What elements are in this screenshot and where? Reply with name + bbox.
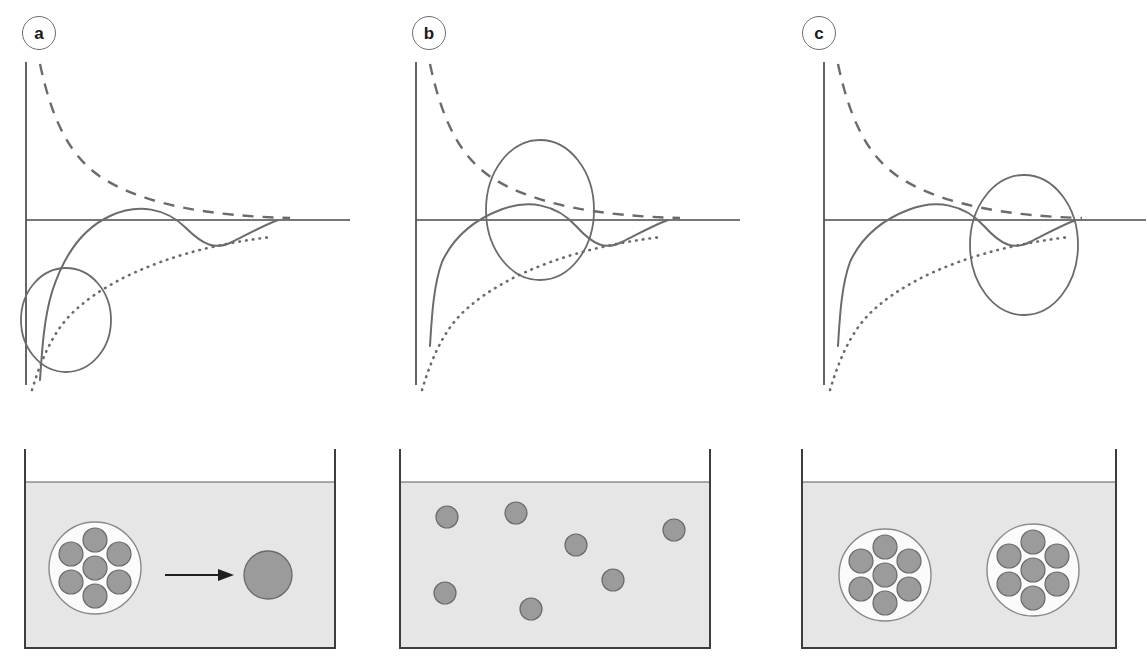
particle-dot	[434, 582, 456, 604]
particle-dot	[873, 563, 897, 587]
particle-dot	[107, 542, 131, 566]
figure-root: a	[0, 0, 1147, 668]
panel-label-a: a	[22, 16, 56, 50]
particle-dot	[663, 519, 685, 541]
particle-dot	[849, 577, 873, 601]
particle-dot	[849, 549, 873, 573]
particle-dot	[505, 502, 527, 524]
particle-dot	[997, 572, 1021, 596]
curve-electrostatic-repulsion	[430, 64, 680, 218]
particle-dot	[897, 549, 921, 573]
particle-dot	[897, 577, 921, 601]
particle-dot	[83, 528, 107, 552]
particle-dot	[1021, 586, 1045, 610]
curve-total-potential	[430, 204, 668, 346]
curve-electrostatic-repulsion	[40, 64, 290, 218]
particle-dot	[107, 570, 131, 594]
coalesced-droplet	[244, 551, 292, 599]
micelle-aggregate-left	[839, 529, 931, 621]
curve-total-potential	[40, 209, 278, 380]
particle-dot	[436, 506, 458, 528]
particle-dot	[83, 584, 107, 608]
curve-van-der-waals-attraction	[32, 237, 272, 390]
particle-dot	[59, 570, 83, 594]
panel-a: a	[0, 0, 382, 668]
particle-dot	[1045, 572, 1069, 596]
particle-dot	[1021, 558, 1045, 582]
particle-dot	[520, 598, 542, 620]
vessel-illustration-a	[0, 440, 382, 660]
particle-dot	[59, 542, 83, 566]
panel-b: b	[390, 0, 772, 668]
vessel-illustration-c	[780, 440, 1147, 660]
particle-dot	[83, 556, 107, 580]
particle-dot	[873, 591, 897, 615]
potential-plot-c	[780, 50, 1147, 400]
curve-electrostatic-repulsion	[838, 64, 1082, 218]
micelle-aggregate	[49, 522, 141, 614]
vessel-illustration-b	[390, 440, 772, 660]
potential-plot-b	[390, 50, 772, 400]
micelle-aggregate-right	[987, 524, 1079, 616]
particle-dot	[602, 569, 624, 591]
particle-dot	[565, 534, 587, 556]
particle-dot	[997, 544, 1021, 568]
curve-total-potential	[838, 204, 1076, 346]
highlight-ellipse-primary-minimum	[21, 268, 111, 372]
particle-dot	[1021, 530, 1045, 554]
curve-van-der-waals-attraction	[422, 237, 662, 390]
panel-label-c: c	[802, 16, 836, 50]
panel-c: c	[780, 0, 1147, 668]
particle-dot	[1045, 544, 1069, 568]
panel-label-b: b	[412, 16, 446, 50]
particle-dot	[873, 535, 897, 559]
potential-plot-a	[0, 50, 382, 400]
